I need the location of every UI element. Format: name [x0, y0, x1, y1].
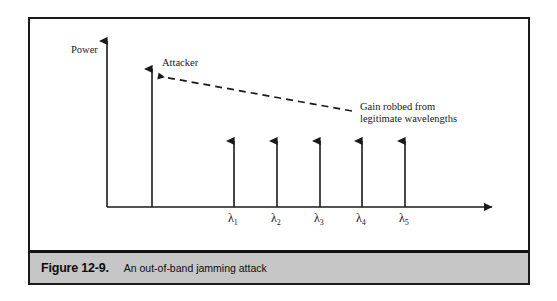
lambda-subscript: 4 [362, 218, 366, 227]
lambda-subscript: 2 [277, 218, 281, 227]
lambda-subscript: 3 [320, 218, 324, 227]
y-axis-label: Power [71, 44, 98, 55]
x-tick-label-2: λ2 [271, 211, 281, 227]
gain-robbed-line-1: Gain robbed from [360, 101, 435, 114]
gain-robbed-connector-icon [158, 76, 352, 111]
lambda-subscript: 5 [405, 218, 409, 227]
figure-caption-number: Figure 12-9. [41, 261, 109, 275]
x-tick-label-4: λ4 [356, 211, 366, 227]
figure-frame: Power Attacker Gain robbed from legitima… [28, 17, 530, 285]
figure-caption-title: An out-of-band jamming attack [124, 262, 267, 274]
x-tick-label-1: λ1 [228, 211, 238, 227]
plot-area: Power Attacker Gain robbed from legitima… [30, 19, 528, 250]
wavelength-power-bars [234, 141, 405, 207]
x-tick-label-3: λ3 [314, 211, 324, 227]
lambda-subscript: 1 [234, 218, 238, 227]
figure-caption-bar: Figure 12-9. An out-of-band jamming atta… [30, 250, 528, 283]
attacker-series-label: Attacker [162, 57, 198, 68]
figure-root: Power Attacker Gain robbed from legitima… [0, 0, 557, 301]
gain-robbed-line-2: legitimate wavelengths [360, 113, 457, 126]
x-tick-label-5: λ5 [399, 211, 409, 227]
